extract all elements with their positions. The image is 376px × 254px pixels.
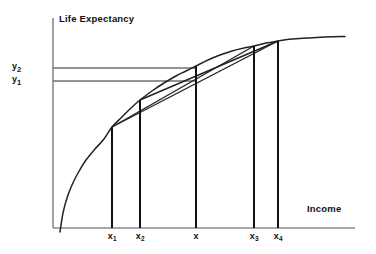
- axes-group: [53, 18, 355, 228]
- curve-path: [60, 37, 345, 233]
- x-tick-label-x4: x4: [269, 231, 287, 241]
- chord-x2-x4: [140, 41, 278, 100]
- y-tick-label-y2: y2: [12, 61, 21, 74]
- y2-subscript: 2: [17, 65, 21, 74]
- x-tick-label-x1: x1: [103, 231, 121, 241]
- x-main: x: [193, 231, 198, 241]
- x-tick-label-x: x: [188, 231, 204, 241]
- y-axis-title: Life Expectancy: [59, 13, 134, 24]
- x3-main: x: [250, 231, 255, 241]
- drop-lines-group: [112, 41, 278, 228]
- x1-subscript: 1: [113, 235, 117, 242]
- x-tick-label-x2: x2: [131, 231, 149, 241]
- chart-canvas: [0, 0, 376, 254]
- chord-x1-x3: [112, 46, 254, 127]
- x-tick-label-x3: x3: [245, 231, 263, 241]
- y1-subscript: 1: [17, 78, 21, 87]
- x2-subscript: 2: [141, 235, 145, 242]
- x3-subscript: 3: [255, 235, 259, 242]
- y-tick-label-y1: y1: [12, 74, 21, 87]
- level-lines-group: [53, 68, 196, 81]
- x2-main: x: [136, 231, 141, 241]
- chart-figure: Life Expectancy Income y2 y1 x1 x2 x x3 …: [0, 0, 376, 254]
- x-axis-title: Income: [307, 203, 341, 214]
- x4-subscript: 4: [279, 235, 283, 242]
- life-expectancy-curve: [60, 37, 345, 233]
- x1-main: x: [108, 231, 113, 241]
- x4-main: x: [274, 231, 279, 241]
